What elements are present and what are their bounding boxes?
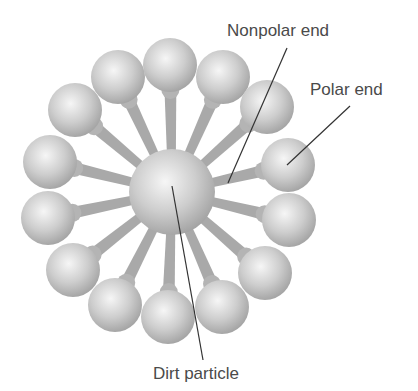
polar-head — [91, 50, 145, 104]
polar-head — [88, 278, 142, 332]
polar-head — [196, 50, 250, 104]
polar-end-label: Polar end — [310, 81, 383, 98]
polar-head — [240, 80, 294, 134]
dirt-particle-label: Dirt particle — [153, 365, 239, 382]
polar-head — [21, 191, 75, 245]
micelle-diagram — [0, 0, 418, 391]
polar-head — [48, 83, 102, 137]
polar-end-leader-line — [287, 106, 350, 165]
polar-head — [46, 243, 100, 297]
polar-head — [23, 135, 77, 189]
polar-head — [143, 38, 197, 92]
dirt-particle — [129, 149, 215, 235]
nonpolar-end-label: Nonpolar end — [227, 22, 329, 39]
polar-head — [195, 280, 249, 334]
polar-head — [238, 246, 292, 300]
polar-head — [141, 290, 195, 344]
polar-head — [262, 193, 316, 247]
